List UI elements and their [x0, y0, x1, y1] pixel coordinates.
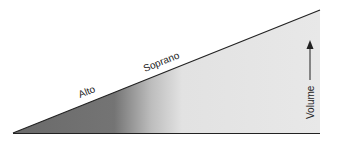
volume-wedge-diagram: Alto Soprano Volume: [0, 0, 337, 142]
alto-label: Alto: [77, 83, 98, 100]
volume-label: Volume: [305, 85, 316, 119]
